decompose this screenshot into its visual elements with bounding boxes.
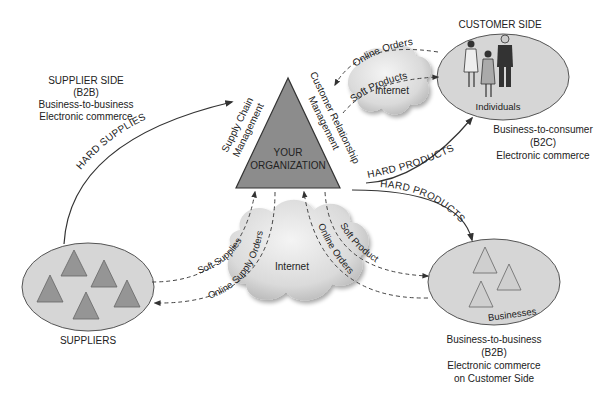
org-label-line1: YOUR [274, 147, 303, 158]
suppliers-ellipse [22, 243, 154, 331]
svg-text:(B2B): (B2B) [481, 347, 507, 358]
svg-text:(B2C): (B2C) [530, 137, 556, 148]
svg-text:SUPPLIER SIDE: SUPPLIER SIDE [48, 75, 124, 86]
customer-side-title: CUSTOMER SIDE [458, 19, 541, 30]
b2c-caption: Business-to-consumer (B2C) Electronic co… [493, 124, 593, 161]
svg-text:Electronic commerce: Electronic commerce [447, 360, 541, 371]
individuals-label: Individuals [476, 101, 521, 112]
org-label-line2: ORGANIZATION [250, 160, 325, 171]
hard-supplies-arrow [64, 102, 232, 244]
svg-text:Electronic commerce: Electronic commerce [496, 150, 590, 161]
internet-label-bottom: Internet [275, 261, 309, 272]
supplier-side-caption: SUPPLIER SIDE (B2B) Business-to-business… [38, 75, 133, 122]
hard-products-b2c-label: HARD PRODUCTS [366, 142, 455, 180]
ecommerce-diagram: Internet Internet YOUR ORGANIZATION Supp… [0, 0, 616, 399]
svg-text:Electronic commerce: Electronic commerce [39, 111, 133, 122]
hard-products-b2b-label: HARD PRODUCTS [380, 178, 468, 225]
b2b-customer-caption: Business-to-business (B2B) Electronic co… [446, 334, 541, 384]
svg-text:(B2B): (B2B) [73, 87, 99, 98]
svg-text:Business-to-consumer: Business-to-consumer [493, 124, 593, 135]
svg-text:Business-to-business: Business-to-business [38, 99, 133, 110]
svg-text:on Customer Side: on Customer Side [454, 373, 534, 384]
suppliers-label: SUPPLIERS [60, 335, 116, 346]
svg-text:Business-to-business: Business-to-business [446, 334, 541, 345]
